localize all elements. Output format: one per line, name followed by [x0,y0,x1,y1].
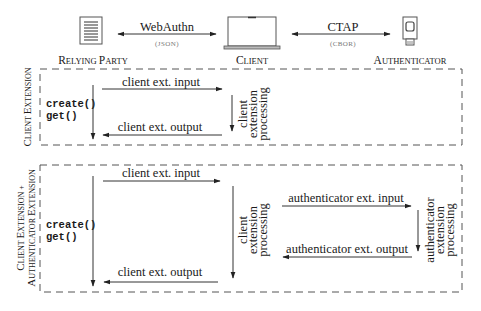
client-processing-label-2-3: processing [256,203,270,257]
webauthn-label: WebAuthn [140,20,195,34]
security-key-icon [403,17,417,45]
authenticator-processing-label-3: processing [443,203,457,257]
laptop-icon [224,17,280,49]
authenticator-ext-input-label: authenticator ext. input [288,191,404,205]
client-extension-plus-side-label: CLIENT EXTENSION + [14,185,26,271]
client-authenticator-extension-section: CLIENT EXTENSION + AUTHENTICATOR EXTENSI… [14,165,462,292]
authenticator-extension-side-label: AUTHENTICATOR EXTENSION [25,169,37,287]
json-format-label: (JSON) [155,40,179,48]
ctap-label: CTAP [328,20,359,34]
rp-get-call-2: get() [46,231,78,243]
client-extension-side-label: CLIENT EXTENSION [21,67,33,146]
client-ext-output-label: client ext. output [118,120,203,134]
client-ext-output-label-2: client ext. output [118,265,203,279]
client-ext-input-label-2: client ext. input [122,166,201,180]
client-extension-section: CLIENT EXTENSION create() get() client e… [21,67,462,146]
rp-create-call: create() [46,98,96,110]
client-label: CLIENT [236,54,269,66]
client-ext-input-label: client ext. input [122,75,201,89]
document-icon [80,17,102,44]
cbor-format-label: (CBOR) [330,40,356,48]
rp-create-call-2: create() [46,219,96,231]
rp-get-call: get() [46,110,78,122]
relying-party-label: RELYING PARTY [58,54,128,66]
webauthn-protocol: WebAuthn (JSON) [118,20,216,48]
authenticator-label: AUTHENTICATOR [374,54,447,66]
client-processing-label-3: processing [256,87,270,141]
extension-flow-diagram: WebAuthn (JSON) CTAP (CBOR) RELYING PART… [0,0,481,311]
authenticator-ext-output-label: authenticator ext. output [286,242,408,256]
ctap-protocol: CTAP (CBOR) [292,20,390,48]
